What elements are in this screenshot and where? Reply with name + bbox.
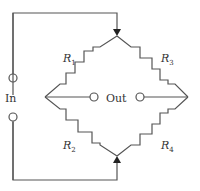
output-terminal-left	[90, 93, 98, 101]
r3-label: R3	[160, 52, 174, 67]
input-label: In	[5, 92, 16, 105]
top-arrow-icon	[113, 29, 121, 36]
r2-label: R2	[62, 139, 76, 154]
bottom-arrow-icon	[113, 156, 121, 163]
resistor-r3	[117, 36, 188, 97]
output-terminal-right	[136, 93, 144, 101]
resistor-r2	[45, 97, 117, 156]
output-label: Out	[106, 92, 127, 105]
resistor-r4	[117, 97, 188, 156]
resistor-r1	[45, 36, 117, 97]
r1-label: R1	[62, 52, 76, 67]
wheatstone-bridge-diagram: In Out R1 R3 R2 R4	[0, 0, 200, 191]
r4-label: R4	[160, 139, 174, 154]
input-terminal-bottom	[9, 113, 17, 121]
